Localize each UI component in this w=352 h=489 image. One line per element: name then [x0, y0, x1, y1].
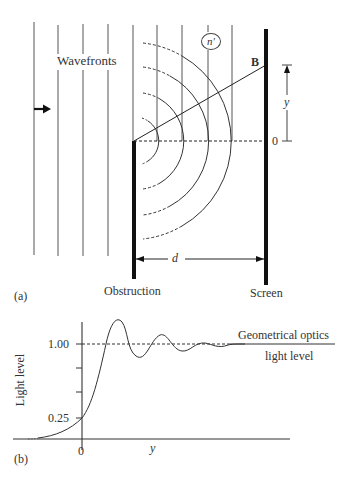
obstruction-barrier: [132, 141, 136, 279]
right-arrow-icon: [34, 105, 51, 114]
obstruction-label: Obstruction: [104, 285, 161, 297]
y-dimension-label: y: [284, 96, 289, 108]
point-b-label: B: [251, 56, 259, 68]
x-zero-label: 0: [78, 445, 84, 457]
panel-a-tag: (a): [14, 290, 27, 302]
zero-point-marker: [264, 139, 268, 143]
geometrical-optics-label: Geometrical optics: [238, 329, 329, 341]
zero-label: 0: [272, 135, 278, 147]
screen-barrier: [264, 29, 268, 285]
tick-label-1-00: 1.00: [48, 338, 69, 350]
light-level-label: light level: [265, 350, 313, 362]
y-axis-label: Light level: [14, 354, 26, 406]
x-axis-label: y: [150, 442, 155, 454]
tick-label-0-25: 0.25: [48, 412, 69, 424]
wavefronts-label: Wavefronts: [55, 54, 119, 67]
light-level-curve: [38, 320, 245, 438]
refractive-index-label: n': [201, 33, 221, 50]
distance-d-label: d: [172, 252, 178, 264]
screen-label: Screen: [250, 287, 283, 299]
d-dimension-arrow: [136, 256, 264, 262]
point-b-marker: [264, 63, 268, 67]
panel-b-tag: (b): [14, 453, 28, 465]
ray-to-b: [134, 65, 266, 141]
